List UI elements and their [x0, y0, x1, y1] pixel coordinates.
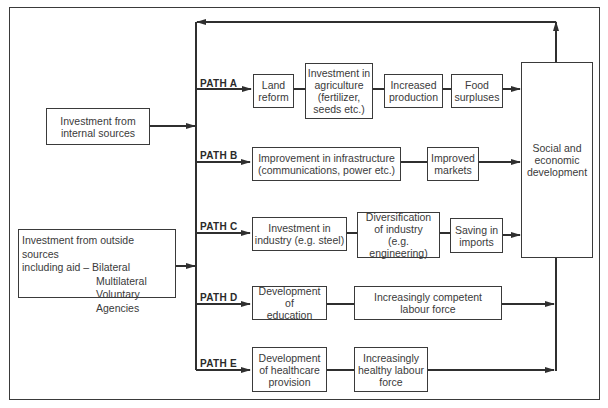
box-text: (fertilizer,	[308, 91, 370, 103]
box-text: of healthcare	[259, 364, 321, 376]
diversification-box: Diversificationof industry(e.g. engineer…	[357, 212, 440, 258]
box-text: development	[527, 166, 587, 178]
education-box: Development ofeducation	[252, 286, 327, 320]
box-text: Food	[455, 79, 500, 91]
box-text: Investment in	[308, 67, 370, 79]
box-text: internal sources	[60, 127, 135, 139]
path-d-label: PATH D	[200, 292, 238, 303]
box-text: seeds etc.)	[308, 103, 370, 115]
food-surpluses-box: Foodsurpluses	[451, 74, 503, 108]
box-text: education	[253, 309, 326, 321]
box-text: Social and	[527, 142, 587, 154]
box-text: Improved	[431, 152, 475, 164]
industry-investment-box: Investment inindustry (e.g. steel)	[252, 217, 347, 251]
agriculture-investment-box: Investment inagriculture(fertilizer,seed…	[305, 63, 373, 119]
box-text: Saving in	[455, 224, 498, 236]
box-text: Increased	[389, 79, 438, 91]
box-text: imports	[455, 236, 498, 248]
aid-type-multilateral: Multilateral	[22, 275, 172, 289]
box-text: Investment from	[60, 115, 135, 127]
box-text: Increasingly competent	[374, 291, 482, 303]
aid-type-agencies: Agencies	[22, 302, 172, 316]
box-text: force	[358, 376, 424, 388]
box-text: Investment from outside sources	[22, 234, 172, 261]
box-text: of industry	[358, 223, 439, 235]
box-text: labour force	[374, 303, 482, 315]
infrastructure-box: Improvement in infrastructure(communicat…	[252, 147, 401, 181]
box-text: Development of	[253, 285, 326, 309]
box-text: reform	[258, 91, 288, 103]
path-a-label: PATH A	[200, 78, 237, 89]
increased-production-box: Increasedproduction	[384, 74, 443, 108]
improved-markets-box: Improvedmarkets	[427, 147, 479, 181]
healthy-labour-box: Increasinglyhealthy labourforce	[354, 347, 428, 392]
box-text: Investment in	[255, 222, 344, 234]
healthcare-box: Developmentof healthcareprovision	[252, 347, 327, 392]
box-text: industry (e.g. steel)	[255, 234, 344, 246]
land-reform-box: Landreform	[253, 74, 294, 108]
internal-investment-box: Investment from internal sources	[46, 108, 150, 145]
box-text: (communications, power etc.)	[258, 164, 395, 176]
box-text: provision	[259, 376, 321, 388]
outside-investment-box: Investment from outside sources includin…	[18, 229, 176, 298]
path-b-label: PATH B	[200, 150, 238, 161]
box-text: Development	[259, 352, 321, 364]
competent-labour-box: Increasingly competentlabour force	[354, 286, 502, 320]
social-economic-development-box: Social andeconomicdevelopment	[521, 62, 593, 258]
box-text: agriculture	[308, 79, 370, 91]
box-text: production	[389, 91, 438, 103]
box-text: Improvement in infrastructure	[258, 152, 395, 164]
saving-imports-box: Saving inimports	[450, 218, 503, 253]
box-text: Land	[258, 79, 288, 91]
box-text: Increasingly	[358, 352, 424, 364]
aid-type-voluntary: Voluntary	[22, 288, 172, 302]
box-text: (e.g. engineering)	[358, 235, 439, 259]
box-text: markets	[431, 164, 475, 176]
path-c-label: PATH C	[200, 221, 238, 232]
box-text: Diversification	[358, 211, 439, 223]
box-text: surpluses	[455, 91, 500, 103]
box-text: healthy labour	[358, 364, 424, 376]
path-e-label: PATH E	[200, 358, 237, 369]
box-text: economic	[527, 154, 587, 166]
box-text: including aid – Bilateral	[22, 261, 172, 275]
